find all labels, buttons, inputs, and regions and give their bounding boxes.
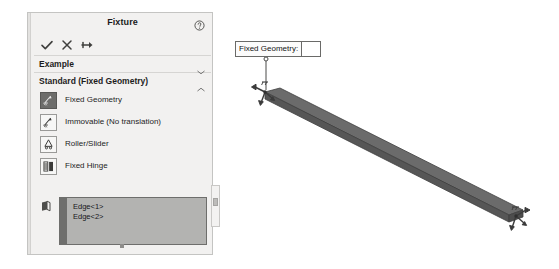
panel-content: Fixture bbox=[31, 13, 212, 254]
fixture-type-fixed-geometry[interactable]: Fixed Geometry bbox=[34, 90, 211, 112]
fixture-type-label: Immovable (No translation) bbox=[65, 117, 161, 126]
callout-value-field[interactable] bbox=[301, 42, 320, 56]
pin-icon[interactable] bbox=[79, 37, 95, 53]
callout-leader-line bbox=[264, 57, 268, 90]
face-selection-icon bbox=[39, 199, 53, 213]
fixed-geometry-icon bbox=[40, 92, 57, 109]
selection-accent-bar bbox=[60, 198, 67, 244]
scrollbar-thumb[interactable] bbox=[213, 198, 218, 206]
list-item[interactable]: Edge<1> bbox=[73, 202, 103, 211]
section-header-standard[interactable]: Standard (Fixed Geometry) bbox=[34, 73, 211, 89]
ok-check-icon[interactable] bbox=[39, 37, 55, 53]
immovable-icon bbox=[40, 114, 57, 131]
section-label-example: Example bbox=[39, 59, 74, 69]
page-title: Fixture bbox=[34, 17, 211, 27]
selection-row: Edge<1> Edge<2> bbox=[34, 197, 211, 247]
fixture-type-label: Fixed Hinge bbox=[65, 161, 108, 170]
panel-title-bar: Fixture bbox=[34, 14, 211, 33]
section-header-example[interactable]: Example bbox=[34, 56, 211, 73]
fixture-property-panel: Fixture bbox=[27, 12, 213, 255]
fixture-type-label: Roller/Slider bbox=[65, 139, 109, 148]
chevron-up-icon[interactable] bbox=[197, 78, 205, 83]
roller-slider-icon bbox=[40, 136, 57, 153]
fixed-hinge-icon bbox=[40, 158, 57, 175]
panel-toolbar bbox=[34, 35, 211, 56]
panel-scrollbar[interactable] bbox=[211, 185, 220, 227]
fixture-type-roller-slider[interactable]: Roller/Slider bbox=[34, 134, 211, 156]
fixture-type-list: Fixed Geometry Immovable (No translation… bbox=[34, 90, 211, 178]
chevron-down-icon[interactable] bbox=[197, 61, 205, 66]
fixed-geometry-callout[interactable]: Fixed Geometry: bbox=[235, 41, 321, 57]
fixture-type-fixed-hinge[interactable]: Fixed Hinge bbox=[34, 156, 211, 178]
fixture-type-immovable[interactable]: Immovable (No translation) bbox=[34, 112, 211, 134]
graphics-viewport[interactable]: Fixed Geometry: bbox=[225, 0, 559, 269]
selected-entities-listbox[interactable]: Edge<1> Edge<2> bbox=[59, 197, 207, 245]
section-label-standard: Standard (Fixed Geometry) bbox=[39, 76, 148, 86]
help-circle-icon[interactable] bbox=[194, 17, 205, 28]
close-x-icon[interactable] bbox=[59, 37, 75, 53]
callout-label: Fixed Geometry: bbox=[236, 42, 301, 56]
panel-resize-grip[interactable] bbox=[120, 244, 124, 248]
fixture-type-label: Fixed Geometry bbox=[65, 95, 122, 104]
beam-solid bbox=[265, 88, 523, 222]
list-item[interactable]: Edge<2> bbox=[73, 212, 103, 221]
